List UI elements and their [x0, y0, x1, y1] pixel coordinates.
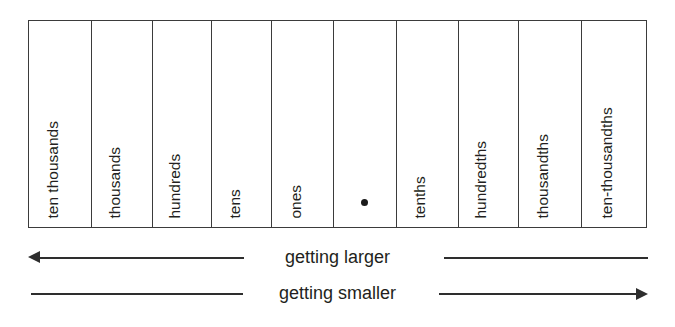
place-value-cell-decimal-point: [334, 21, 397, 227]
place-value-cell-hundreds: hundreds: [153, 21, 213, 227]
getting-larger-right-line: [444, 257, 648, 259]
place-value-chart: ten thousandsthousandshundredstensoneste…: [28, 20, 647, 228]
arrow-right-head-icon: [636, 288, 648, 300]
place-value-label: ten thousands: [44, 121, 60, 218]
place-value-cell-tens: tens: [212, 21, 272, 227]
place-value-label: hundreds: [166, 153, 182, 218]
place-value-label: hundredths: [473, 140, 489, 218]
place-value-label: tenths: [412, 176, 428, 218]
place-value-label: tens: [226, 189, 242, 218]
place-value-label: ten-thousandths: [599, 107, 615, 218]
getting-smaller-right-line: [439, 293, 637, 295]
place-value-label: thousands: [106, 146, 122, 218]
place-value-cell-ten-thousands: ten thousands: [29, 21, 92, 227]
getting-larger-row: getting larger: [0, 244, 675, 272]
decimal-point-icon: [361, 199, 368, 206]
place-value-label: ones: [287, 184, 303, 218]
figure-canvas: ten thousandsthousandshundredstensoneste…: [0, 0, 675, 327]
place-value-cell-ten-thousandths: ten-thousandths: [582, 21, 646, 227]
place-value-cell-thousands: thousands: [92, 21, 153, 227]
place-value-label: thousandths: [535, 134, 551, 218]
place-value-cell-hundredths: hundredths: [459, 21, 520, 227]
getting-smaller-row: getting smaller: [0, 280, 675, 308]
place-value-cell-thousandths: thousandths: [519, 21, 582, 227]
place-value-cell-tenths: tenths: [397, 21, 459, 227]
place-value-cell-ones: ones: [272, 21, 334, 227]
